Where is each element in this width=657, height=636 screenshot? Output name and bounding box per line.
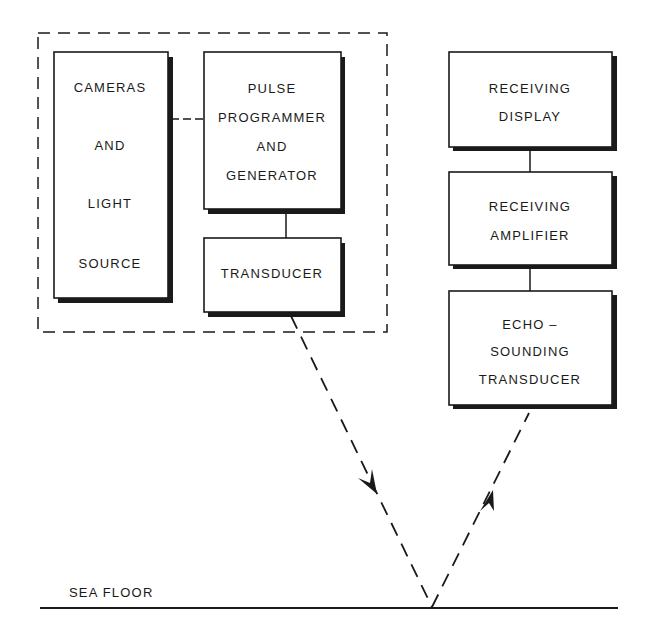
block-label: GENERATOR bbox=[226, 168, 318, 183]
block-cameras-light-source: CAMERAS AND LIGHT SOURCE bbox=[54, 52, 173, 303]
block-label: LIGHT bbox=[88, 196, 132, 211]
block-receiving-amplifier: RECEIVING AMPLIFIER bbox=[449, 172, 617, 269]
arrow-up-icon bbox=[480, 490, 494, 511]
sea-floor-label: SEA FLOOR bbox=[69, 585, 154, 600]
block-label: AND bbox=[256, 139, 287, 154]
block-label: SOURCE bbox=[79, 256, 142, 271]
sonar-block-diagram: CAMERAS AND LIGHT SOURCE PULSE PROGRAMME… bbox=[0, 0, 657, 636]
block-label: TRANSDUCER bbox=[479, 372, 581, 387]
block-label: PROGRAMMER bbox=[218, 110, 326, 125]
block-pulse-programmer-generator: PULSE PROGRAMMER AND GENERATOR bbox=[204, 52, 345, 214]
block-echo-sounding-transducer: ECHO – SOUNDING TRANSDUCER bbox=[449, 291, 617, 409]
block-label: ECHO – bbox=[502, 317, 558, 332]
block-label: TRANSDUCER bbox=[221, 266, 323, 281]
block-transducer: TRANSDUCER bbox=[204, 238, 345, 317]
signal-path-outgoing bbox=[291, 316, 432, 607]
block-label: DISPLAY bbox=[499, 109, 561, 124]
signal-path-return bbox=[432, 413, 529, 607]
block-label: RECEIVING bbox=[489, 199, 571, 214]
block-label: AMPLIFIER bbox=[490, 228, 569, 243]
block-label: SOUNDING bbox=[490, 344, 570, 359]
block-label: RECEIVING bbox=[489, 81, 571, 96]
block-receiving-display: RECEIVING DISPLAY bbox=[449, 52, 617, 151]
block-label: PULSE bbox=[248, 81, 297, 96]
block-label: CAMERAS bbox=[74, 80, 147, 95]
block-label: AND bbox=[94, 138, 125, 153]
